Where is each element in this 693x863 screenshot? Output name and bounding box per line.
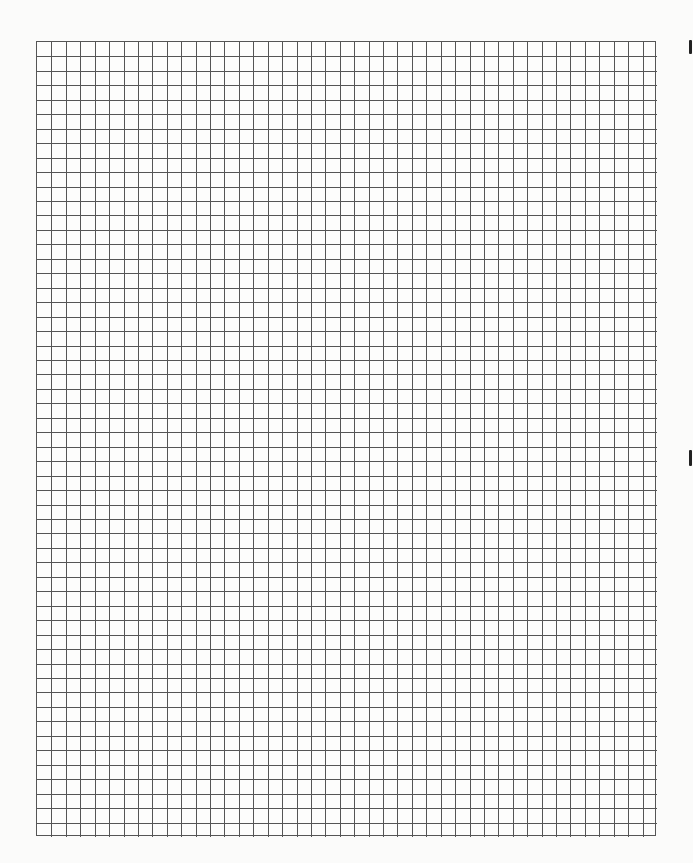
- binder-hole-mark: [689, 40, 692, 54]
- binder-hole-mark: [689, 450, 692, 466]
- graph-paper-page: [0, 0, 693, 863]
- grid-lines: [37, 42, 657, 837]
- grid: [36, 41, 656, 836]
